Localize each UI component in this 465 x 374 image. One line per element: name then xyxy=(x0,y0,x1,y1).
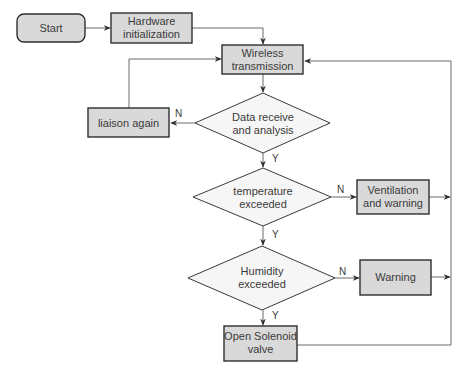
node-wireless: Wireless transmission xyxy=(222,45,303,74)
node-ventilation: Ventilation and warning xyxy=(357,180,429,214)
node-humidity: Humidity exceeded xyxy=(188,246,335,310)
node-warning-label: Warning xyxy=(375,271,416,283)
node-liaison-label: liaison again xyxy=(98,117,159,129)
flowchart: Start Hardware initialization Wireless t… xyxy=(0,0,465,374)
node-wireless-label-2: transmission xyxy=(232,60,294,72)
node-start: Start xyxy=(17,14,85,42)
node-temperature-label-2: exceeded xyxy=(239,198,287,210)
node-hardware: Hardware initialization xyxy=(111,13,192,43)
node-hardware-label-2: initialization xyxy=(123,28,180,40)
node-humidity-label-2: exceeded xyxy=(238,278,286,290)
node-start-label: Start xyxy=(39,22,62,34)
node-ventilation-label-1: Ventilation xyxy=(368,184,419,196)
edge-label-humidity-no: N xyxy=(339,266,346,277)
node-temperature: temperature exceeded xyxy=(193,168,331,226)
node-solenoid-label-2: valve xyxy=(248,343,274,355)
node-data: Data receive and analysis xyxy=(195,93,330,153)
edge-liaison-wireless xyxy=(129,59,221,108)
edge-hardware-wireless xyxy=(192,28,263,44)
edge-label-humidity-yes: Y xyxy=(272,310,279,321)
node-data-label-1: Data receive xyxy=(232,111,294,123)
node-temperature-label-1: temperature xyxy=(233,185,292,197)
node-solenoid-label-1: Open Solenoid xyxy=(224,330,297,342)
node-wireless-label-1: Wireless xyxy=(241,47,284,59)
node-warning: Warning xyxy=(360,260,431,295)
edge-label-data-yes: Y xyxy=(272,153,279,164)
node-humidity-label-1: Humidity xyxy=(241,265,284,277)
edge-label-temperature-yes: Y xyxy=(272,229,279,240)
node-data-label-2: and analysis xyxy=(232,124,294,136)
edge-label-temperature-no: N xyxy=(337,184,344,195)
node-ventilation-label-2: and warning xyxy=(363,197,423,209)
edge-label-data-no: N xyxy=(175,108,182,119)
node-solenoid: Open Solenoid valve xyxy=(224,326,297,361)
node-hardware-label-1: Hardware xyxy=(128,15,176,27)
node-liaison: liaison again xyxy=(88,108,169,137)
